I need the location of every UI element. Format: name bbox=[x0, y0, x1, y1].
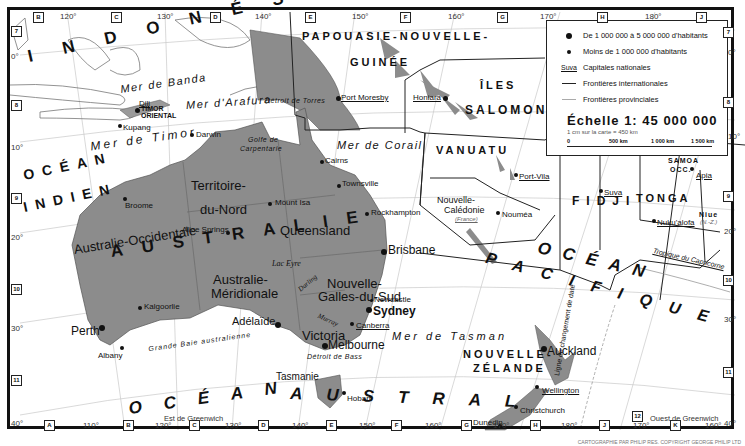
grid-lon-label: 150° bbox=[359, 421, 376, 430]
grid-col-label: J bbox=[696, 12, 707, 23]
city-rockhampton[interactable]: Rockhampton bbox=[371, 209, 420, 217]
label-northern-territory-1: Territoire- bbox=[191, 179, 246, 192]
grid-lat-label: 30° bbox=[11, 324, 23, 333]
city-dot bbox=[366, 307, 372, 313]
label-samoa-2: OCC. bbox=[670, 166, 692, 173]
grid-row-label: 10 bbox=[11, 284, 22, 295]
grid-lon-label: 170° bbox=[540, 12, 557, 21]
grid-row-label: 11 bbox=[11, 375, 22, 386]
city-sydney[interactable]: Sydney bbox=[373, 305, 416, 317]
legend-item-intl-border: Frontières internationales bbox=[555, 79, 668, 88]
label-tasman-sea: Mer de Tasman bbox=[392, 331, 507, 342]
city-dot bbox=[120, 346, 124, 350]
city-dot bbox=[275, 322, 281, 328]
scale-bar bbox=[567, 146, 712, 147]
city-hobart[interactable]: Hobart bbox=[347, 395, 371, 403]
grid-col-label: D bbox=[210, 12, 221, 23]
label-bass-strait: Détroit de Bass bbox=[307, 353, 362, 360]
city-port-moresby[interactable]: Port Moresby bbox=[341, 94, 389, 102]
city-christchurch[interactable]: Christchurch bbox=[520, 407, 565, 415]
scale-tick: 500 km bbox=[609, 138, 628, 144]
grid-lon-label: 160° bbox=[425, 421, 442, 430]
city-kupang[interactable]: Kupang bbox=[123, 124, 151, 132]
city-alice-springs[interactable]: Alice Springs bbox=[182, 226, 229, 234]
grid-col-label: H bbox=[597, 12, 608, 23]
city-brisbane[interactable]: Brisbane bbox=[388, 244, 435, 256]
grid-col-label: J bbox=[599, 420, 610, 431]
city-noumea[interactable]: Nouméa bbox=[502, 211, 532, 219]
city-wellington[interactable]: Wellington bbox=[542, 387, 579, 395]
legend-item-small-city: Moins de 1 000 000 d'habitants bbox=[555, 47, 687, 56]
city-apia[interactable]: Apia bbox=[696, 172, 712, 180]
label-niue-note: (N.-Z.) bbox=[700, 219, 717, 225]
city-dot bbox=[370, 299, 373, 302]
city-dot bbox=[190, 133, 194, 137]
city-darwin[interactable]: Darwin bbox=[196, 131, 221, 139]
city-melbourne[interactable]: Melbourne bbox=[328, 339, 385, 351]
legend-item-prov-border: Frontières provinciales bbox=[555, 95, 658, 104]
grid-lon-label: 180° bbox=[645, 12, 662, 21]
city-auckland[interactable]: Auckland bbox=[547, 345, 596, 357]
grid-lat-label: 0° bbox=[11, 52, 19, 61]
grid-lon-label: 170° bbox=[493, 421, 510, 430]
scale-title: Échelle 1: 45 000 000 bbox=[567, 113, 717, 128]
city-dot bbox=[138, 306, 142, 310]
legend-label: Moins de 1 000 000 d'habitants bbox=[583, 47, 687, 56]
city-dot bbox=[337, 184, 341, 188]
city-townsville[interactable]: Townsville bbox=[342, 180, 378, 188]
city-adelaide[interactable]: Adélaïde bbox=[232, 316, 275, 327]
grid-row-label: 11 bbox=[723, 367, 734, 378]
city-broome[interactable]: Broome bbox=[125, 202, 153, 210]
city-dot bbox=[514, 405, 518, 409]
city-dot bbox=[514, 173, 518, 177]
city-dot bbox=[443, 96, 448, 101]
city-perth[interactable]: Perth bbox=[71, 325, 100, 337]
city-newcastle[interactable]: Newcastle bbox=[374, 296, 411, 304]
scale-tick: 1 000 km bbox=[651, 138, 674, 144]
city-dot bbox=[535, 385, 539, 389]
grid-col-label: B bbox=[33, 12, 44, 23]
city-dot bbox=[342, 391, 346, 395]
label-png-2: GUINÉE bbox=[350, 57, 410, 68]
grid-row-label: 8 bbox=[11, 100, 22, 111]
grid-row-label: 7 bbox=[11, 26, 22, 37]
label-east-greenwich: Est de Greenwich bbox=[164, 414, 223, 423]
grid-lon-label: 150° bbox=[352, 12, 369, 21]
label-torres-strait: Détroit de Torres bbox=[265, 97, 325, 104]
city-kalgoorlie[interactable]: Kalgoorlie bbox=[144, 303, 180, 311]
scale-tick: 1 500 km bbox=[691, 138, 714, 144]
legend-item-capital: Suva Capitales nationales bbox=[555, 63, 651, 72]
label-vanuatu: VANUATU bbox=[436, 145, 509, 156]
city-dot bbox=[135, 108, 140, 113]
legend-label: De 1 000 000 à 5 000 000 d'habitants bbox=[583, 31, 708, 40]
grid-row-label: 9 bbox=[723, 191, 734, 202]
map-legend: De 1 000 000 à 5 000 000 d'habitants Moi… bbox=[546, 20, 728, 156]
grid-col-label: A bbox=[44, 420, 55, 431]
label-timor-2: ORIENTAL bbox=[141, 112, 176, 119]
city-dot bbox=[496, 211, 500, 215]
label-lake-eyre: Lac Eyre bbox=[272, 260, 301, 268]
city-dot bbox=[652, 219, 656, 223]
city-dili[interactable]: Dili bbox=[139, 100, 150, 108]
label-gulf-carpentaria-2: Carpentarie bbox=[240, 145, 282, 152]
city-albany[interactable]: Albany bbox=[98, 352, 122, 360]
scale-subtitle: 1 cm sur la carte = 450 km bbox=[567, 129, 638, 135]
label-new-caledonia-2: Calédonie bbox=[444, 206, 485, 215]
grid-col-label: B bbox=[123, 420, 134, 431]
city-dot bbox=[99, 325, 105, 331]
city-port-vila[interactable]: Port-Vila bbox=[519, 173, 550, 181]
grid-col-label: E bbox=[326, 420, 337, 431]
city-nukualofa[interactable]: Nuku'alofa bbox=[657, 219, 695, 227]
grid-row-label: 7 bbox=[723, 27, 734, 38]
city-cairns[interactable]: Cairns bbox=[325, 157, 348, 165]
grid-col-label: G bbox=[461, 420, 472, 431]
city-honiara[interactable]: Honiara bbox=[413, 94, 441, 102]
city-suva[interactable]: Suva bbox=[604, 189, 622, 197]
grid-lon-label: 170° bbox=[633, 421, 650, 430]
city-mount-isa[interactable]: Mount Isa bbox=[275, 199, 310, 207]
grid-col-label: C bbox=[111, 12, 122, 23]
label-solomon-2: SALOMON bbox=[465, 104, 547, 116]
legend-item-large-city: De 1 000 000 à 5 000 000 d'habitants bbox=[555, 31, 708, 40]
label-nz-2: ZÉLANDE bbox=[473, 363, 546, 374]
city-canberra[interactable]: Canberra bbox=[356, 322, 389, 330]
